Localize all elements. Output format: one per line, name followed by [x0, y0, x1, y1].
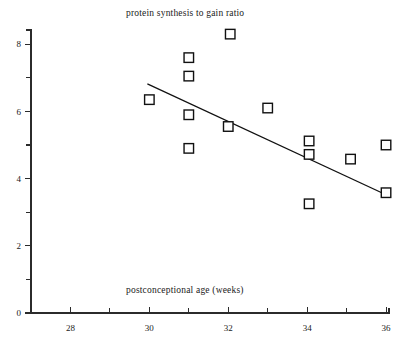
- x-tick-label: 28: [66, 323, 76, 333]
- data-point-marker: [184, 53, 194, 63]
- y-tick-label: 6: [17, 107, 22, 117]
- data-point-marker: [184, 71, 194, 81]
- plot-canvas: 024682830323436: [0, 0, 403, 350]
- tick-labels-group: 024682830323436: [17, 39, 392, 333]
- x-tick-label: 32: [224, 323, 233, 333]
- data-point-marker: [381, 140, 391, 150]
- data-point-marker: [304, 199, 314, 209]
- data-point-marker: [145, 95, 155, 105]
- y-tick-label: 0: [17, 308, 22, 318]
- scatter-plot-figure: protein synthesis to gain ratio postconc…: [0, 0, 403, 350]
- data-point-marker: [304, 136, 314, 146]
- y-tick-label: 2: [17, 241, 22, 251]
- regression-line-group: [147, 84, 386, 195]
- data-point-marker: [304, 150, 314, 160]
- ticks-group: [25, 30, 389, 314]
- y-tick-label: 8: [17, 39, 22, 49]
- data-point-marker: [381, 188, 391, 198]
- data-markers-group: [145, 29, 391, 208]
- data-point-marker: [346, 154, 356, 164]
- data-point-marker: [224, 122, 234, 131]
- x-tick-label: 34: [303, 323, 313, 333]
- data-point-marker: [263, 103, 273, 113]
- data-point-marker: [184, 144, 194, 154]
- regression-line: [147, 84, 386, 195]
- data-point-marker: [225, 29, 235, 39]
- data-point-marker: [184, 110, 194, 120]
- x-tick-label: 30: [145, 323, 155, 333]
- x-tick-label: 36: [382, 323, 392, 333]
- y-tick-label: 4: [17, 174, 22, 184]
